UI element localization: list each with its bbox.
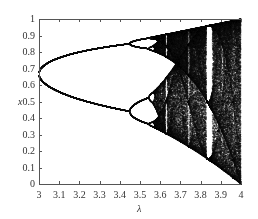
y-tick-label: 0.6: [5, 80, 35, 90]
x-axis-title: λ: [137, 203, 141, 214]
x-tick-label: 3.5: [134, 190, 147, 200]
x-tick-label: 3.9: [215, 190, 228, 200]
x-tick-label: 3.3: [93, 190, 106, 200]
x-tick-label: 3.1: [53, 190, 66, 200]
x-tick-label: 3: [37, 190, 42, 200]
x-tick-label: 3.7: [174, 190, 187, 200]
y-tick-label: 0.7: [5, 64, 35, 74]
y-tick-label: 0.9: [5, 31, 35, 41]
y-tick-label: 0.1: [5, 163, 35, 173]
y-axis-title: x: [18, 96, 22, 107]
x-tick-label: 3.4: [114, 190, 127, 200]
bifurcation-plot: [0, 0, 258, 219]
x-tick-label: 3.6: [154, 190, 167, 200]
y-tick-label: 0.4: [5, 113, 35, 123]
x-tick-label: 3.2: [73, 190, 86, 200]
y-tick-label: 0.8: [5, 47, 35, 57]
x-tick-label: 4: [239, 190, 244, 200]
y-tick-label: 0.3: [5, 130, 35, 140]
y-tick-label: 0.2: [5, 146, 35, 156]
y-tick-label: 0: [5, 179, 35, 189]
y-tick-label: 1: [5, 14, 35, 24]
x-tick-label: 3.8: [194, 190, 207, 200]
